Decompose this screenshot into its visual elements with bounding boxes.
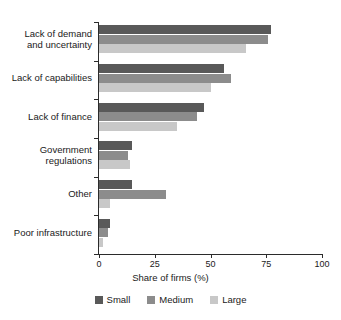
bar-medium-0 <box>99 35 268 44</box>
bar-medium-5 <box>99 228 108 237</box>
legend-label: Medium <box>159 294 193 305</box>
bar-small-1 <box>99 64 224 73</box>
category-label-1: Lack of capabilities <box>0 72 92 84</box>
bar-small-4 <box>99 180 132 189</box>
bar-large-4 <box>99 199 110 208</box>
bar-small-0 <box>99 25 271 34</box>
chart-legend: SmallMediumLarge <box>0 294 341 305</box>
y-axis-tick <box>94 22 99 23</box>
x-axis-tick <box>322 254 323 258</box>
bar-medium-3 <box>99 151 128 160</box>
category-label-2: Lack of finance <box>0 111 92 123</box>
bar-small-2 <box>99 103 204 112</box>
x-axis-tick <box>211 254 212 258</box>
bar-chart: Lack of demand and uncertaintyLack of ca… <box>0 0 341 320</box>
y-axis-tick <box>94 138 99 139</box>
x-axis-tick <box>99 254 100 258</box>
bar-large-3 <box>99 160 130 169</box>
y-axis-tick <box>94 215 99 216</box>
x-axis-tick-label: 100 <box>314 259 329 269</box>
category-label-5: Poor infrastructure <box>0 227 92 239</box>
bar-small-3 <box>99 141 132 150</box>
legend-label: Small <box>107 294 131 305</box>
bar-small-5 <box>99 219 110 228</box>
x-axis-tick-label: 50 <box>205 259 215 269</box>
legend-item-medium[interactable]: Medium <box>147 294 193 305</box>
y-axis-tick <box>94 61 99 62</box>
x-axis-tick-label: 0 <box>96 259 101 269</box>
bar-medium-4 <box>99 190 166 199</box>
x-axis-tick-label: 25 <box>150 259 160 269</box>
x-axis-title: Share of firms (%) <box>0 272 341 283</box>
legend-label: Large <box>222 294 246 305</box>
y-axis-tick <box>94 99 99 100</box>
x-axis-tick <box>155 254 156 258</box>
category-label-4: Other <box>0 188 92 200</box>
legend-swatch-icon <box>210 296 218 304</box>
bar-medium-1 <box>99 74 231 83</box>
legend-swatch-icon <box>147 296 155 304</box>
bar-large-0 <box>99 44 246 53</box>
x-axis-tick-label: 75 <box>261 259 271 269</box>
x-axis-tick <box>266 254 267 258</box>
legend-swatch-icon <box>95 296 103 304</box>
y-axis-tick <box>94 177 99 178</box>
category-label-0: Lack of demand and uncertainty <box>0 28 92 51</box>
bar-medium-2 <box>99 112 197 121</box>
bar-large-2 <box>99 122 177 131</box>
legend-item-large[interactable]: Large <box>210 294 246 305</box>
category-label-3: Government regulations <box>0 144 92 167</box>
legend-item-small[interactable]: Small <box>95 294 131 305</box>
bar-large-1 <box>99 83 211 92</box>
bar-large-5 <box>99 238 103 247</box>
